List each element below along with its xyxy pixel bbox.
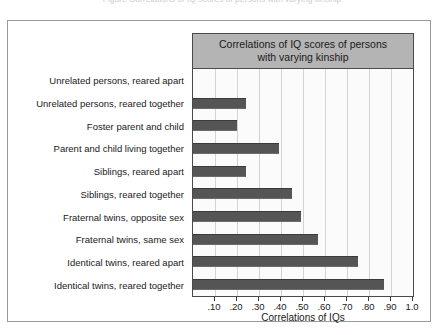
bar-row [193, 205, 413, 228]
x-axis-tick-label: .70 [339, 301, 352, 312]
x-axis-title: Correlations of IQs [192, 312, 414, 323]
clipped-caption-text: Figure Correlations of IQ scores of pers… [0, 0, 444, 13]
bar-row [193, 251, 413, 274]
x-axis-tick-label: .90 [383, 301, 396, 312]
bar-row [193, 92, 413, 115]
bar-series [193, 69, 413, 296]
y-axis-label: Fraternal twins, same sex [76, 234, 184, 245]
bar-row [193, 273, 413, 296]
bar [193, 188, 292, 199]
bar [193, 234, 318, 245]
x-axis-tick-label: .10 [207, 301, 220, 312]
bar [193, 166, 246, 177]
y-axis-label: Parent and child living together [54, 143, 184, 154]
y-axis-label: Unrelated persons, reared together [36, 98, 184, 109]
x-axis-tick-label: .80 [361, 301, 374, 312]
x-axis-tick-label: 1.0 [405, 301, 418, 312]
x-axis-tick-label: .20 [229, 301, 242, 312]
x-axis-tick-label: .30 [251, 301, 264, 312]
x-axis-ticks: .10.20.30.40.50.60.70.80.901.0 [192, 297, 414, 313]
y-axis-label: Siblings, reared together [80, 188, 184, 199]
plot-area [192, 69, 414, 297]
y-axis-label: Identical twins, reared apart [67, 256, 184, 267]
bar [193, 143, 279, 154]
bar [193, 279, 384, 290]
y-axis-label: Unrelated persons, reared apart [49, 75, 184, 86]
y-axis-label: Siblings, reared apart [94, 166, 184, 177]
bar [193, 256, 358, 267]
bar-row [193, 114, 413, 137]
y-axis-label: Identical twins, reared together [54, 279, 184, 290]
bar [193, 120, 237, 131]
y-axis-label: Foster parent and child [87, 120, 184, 131]
y-axis-label: Fraternal twins, opposite sex [63, 211, 184, 222]
bar-row [193, 137, 413, 160]
chart-title-line1: Correlations of IQ scores of persons [219, 38, 387, 51]
bar [193, 98, 246, 109]
figure-frame: Correlations of IQ scores of persons wit… [7, 20, 431, 322]
bar-chart: Correlations of IQ scores of persons wit… [8, 21, 432, 323]
bar [193, 211, 301, 222]
x-axis-tick-label: .40 [273, 301, 286, 312]
y-axis-labels: Unrelated persons, reared apartUnrelated… [18, 69, 188, 297]
x-axis-tick-label: .60 [317, 301, 330, 312]
bar-row [193, 69, 413, 92]
bar-row [193, 183, 413, 206]
chart-title-line2: with varying kinship [219, 51, 387, 64]
bar-row [193, 160, 413, 183]
chart-title: Correlations of IQ scores of persons wit… [192, 33, 414, 69]
x-axis-tick-label: .50 [295, 301, 308, 312]
bar-row [193, 228, 413, 251]
